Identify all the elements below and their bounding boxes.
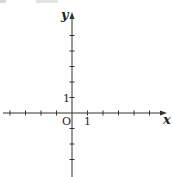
y-unit-label: 1 bbox=[63, 92, 70, 105]
cropped-text-fragment bbox=[36, 0, 58, 3]
coordinate-diagram: x y O 1 1 bbox=[0, 0, 173, 177]
y-axis bbox=[70, 12, 75, 177]
origin-label: O bbox=[62, 115, 71, 128]
x-axis-label: x bbox=[162, 112, 171, 127]
y-axis-arrow-icon bbox=[70, 12, 75, 19]
cropped-text-fragment bbox=[0, 0, 6, 3]
x-unit-label: 1 bbox=[84, 115, 91, 128]
y-axis-label: y bbox=[60, 7, 70, 22]
